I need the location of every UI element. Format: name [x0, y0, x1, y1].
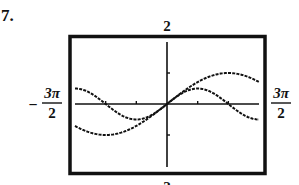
xmax-numerator: 3π	[272, 85, 290, 101]
xmin-sign: −	[28, 96, 37, 113]
xmin-numerator: 3π	[43, 85, 61, 101]
xmin-denominator: 2	[48, 105, 56, 121]
xmax-denominator: 2	[277, 105, 285, 121]
xmin-label: − 3π 2	[28, 85, 62, 121]
graph-figure: 2 2 − 3π 2 3π 2	[0, 0, 299, 185]
ymax-label: 2	[163, 18, 171, 34]
ymin-label: 2	[163, 179, 171, 185]
xmax-label: 3π 2	[271, 85, 291, 121]
